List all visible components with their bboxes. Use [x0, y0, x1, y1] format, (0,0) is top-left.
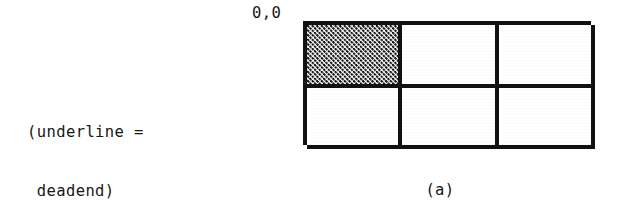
grid-diagram [303, 21, 591, 145]
figure-caption: (a) [415, 181, 465, 201]
grid-cell-r0-c0 [307, 25, 402, 88]
legend-note-line-1: (underline = [27, 123, 144, 143]
grid-table [303, 21, 591, 145]
grid-cell-r0-c1 [402, 25, 499, 88]
grid-cell-r0-c2 [499, 25, 595, 88]
grid-cell-r1-c0 [307, 88, 402, 149]
origin-coordinate-label: 0,0 [252, 4, 281, 24]
figure-canvas: (underline = deadend) 0,0 (a) [0, 0, 623, 213]
grid-cell-r1-c1 [402, 88, 499, 149]
legend-note: (underline = deadend) [27, 83, 144, 213]
grid-cell-r1-c2 [499, 88, 595, 149]
legend-note-line-2: deadend) [27, 182, 144, 202]
